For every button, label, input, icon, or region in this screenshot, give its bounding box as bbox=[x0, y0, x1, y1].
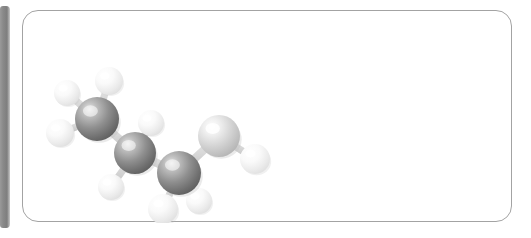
atom-hydrogen-7 bbox=[186, 188, 213, 215]
atom-shadow bbox=[201, 120, 242, 159]
bond-c1-c2 bbox=[97, 119, 135, 153]
atom-sphere-c bbox=[114, 132, 156, 174]
atom-shadow bbox=[242, 148, 271, 176]
bond-c3-c4 bbox=[179, 136, 219, 173]
atom-sphere-h bbox=[148, 194, 178, 223]
bond-c2-c3 bbox=[135, 153, 179, 173]
bond-c1-h3-shade bbox=[97, 81, 109, 119]
atom-sphere-h bbox=[54, 80, 80, 106]
bond-c3-c4-shade bbox=[179, 136, 219, 173]
atom-specular-highlight bbox=[206, 123, 220, 134]
bond-c1-h3 bbox=[97, 81, 109, 119]
atom-sphere-c bbox=[75, 97, 119, 141]
atom-carbon-2 bbox=[114, 132, 158, 176]
atom-shadow bbox=[140, 113, 165, 137]
atom-specular-highlight bbox=[59, 85, 68, 92]
atom-carbon-4 bbox=[198, 115, 242, 159]
atom-carbon-1 bbox=[75, 97, 121, 143]
atom-hydrogen-6 bbox=[148, 194, 179, 223]
atom-shadow bbox=[150, 198, 179, 223]
atom-sphere-h bbox=[98, 174, 124, 200]
atom-sphere-h bbox=[46, 119, 74, 147]
atom-shadow bbox=[56, 83, 81, 107]
bond-c1-c2-shade bbox=[97, 119, 135, 153]
atom-hydrogen-5 bbox=[98, 174, 125, 201]
atom-sphere-h bbox=[138, 110, 164, 136]
atom-specular-highlight bbox=[245, 150, 255, 158]
bond-c4-h8 bbox=[219, 136, 255, 159]
bond-c3-h6 bbox=[163, 173, 179, 209]
atom-shadow bbox=[48, 122, 75, 148]
atom-hydrogen-3 bbox=[95, 67, 124, 96]
atom-sphere-c bbox=[198, 115, 240, 157]
atom-sphere-h bbox=[186, 188, 212, 214]
atom-specular-highlight bbox=[51, 124, 61, 131]
atom-hydrogen-1 bbox=[54, 80, 81, 107]
bond-c2-h4-shade bbox=[135, 123, 151, 153]
atom-hydrogen-4 bbox=[138, 110, 165, 137]
bond-c1-h1-shade bbox=[67, 93, 97, 119]
atom-sphere-h bbox=[95, 67, 123, 95]
molecule-svg bbox=[23, 11, 513, 223]
atom-specular-highlight bbox=[191, 193, 200, 200]
bond-c1-h1 bbox=[67, 93, 97, 119]
atom-specular-highlight bbox=[153, 200, 163, 208]
atom-shadow bbox=[117, 137, 158, 176]
atom-sphere-h bbox=[240, 144, 270, 174]
atom-sphere-c bbox=[157, 151, 201, 195]
atom-carbon-3 bbox=[157, 151, 203, 197]
spine-bar bbox=[0, 6, 10, 228]
bond-c3-h6-shade bbox=[163, 173, 179, 209]
bond-c1-h2 bbox=[60, 119, 97, 133]
figure-panel bbox=[22, 10, 512, 222]
bond-c2-c3-shade bbox=[135, 153, 179, 173]
atom-specular-highlight bbox=[165, 159, 180, 170]
molecule-ball-and-stick bbox=[23, 11, 513, 223]
atom-shadow bbox=[160, 156, 203, 196]
bond-c2-h5-shade bbox=[111, 153, 135, 187]
atom-specular-highlight bbox=[103, 179, 112, 186]
bond-layer bbox=[60, 81, 255, 209]
bond-c3-h7 bbox=[179, 173, 199, 201]
bond-c2-h5 bbox=[111, 153, 135, 187]
atom-hydrogen-8 bbox=[240, 144, 271, 175]
bond-c4-h8-shade bbox=[219, 136, 255, 159]
atom-specular-highlight bbox=[83, 105, 98, 116]
screenshot-root bbox=[0, 0, 531, 238]
atom-specular-highlight bbox=[122, 140, 136, 151]
bond-c3-h7-shade bbox=[179, 173, 199, 201]
atom-shadow bbox=[188, 191, 213, 215]
atom-layer bbox=[46, 67, 271, 223]
atom-specular-highlight bbox=[100, 72, 110, 79]
atom-shadow bbox=[97, 70, 124, 96]
atom-shadow bbox=[78, 102, 121, 142]
atom-shadow bbox=[100, 177, 125, 201]
bond-c2-h4 bbox=[135, 123, 151, 153]
atom-hydrogen-2 bbox=[46, 119, 75, 148]
bond-c1-h2-shade bbox=[60, 119, 97, 133]
atom-specular-highlight bbox=[143, 115, 152, 122]
